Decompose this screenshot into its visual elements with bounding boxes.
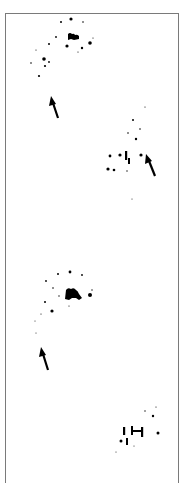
arrow-icon xyxy=(49,96,58,118)
speckle-cluster-1 xyxy=(30,17,93,77)
speckle-cluster-3 xyxy=(35,271,93,334)
speckle-cluster-2 xyxy=(106,106,145,199)
speckle-cluster-4 xyxy=(116,406,160,452)
arrow-icon xyxy=(145,154,155,176)
arrow-icon xyxy=(39,347,48,370)
